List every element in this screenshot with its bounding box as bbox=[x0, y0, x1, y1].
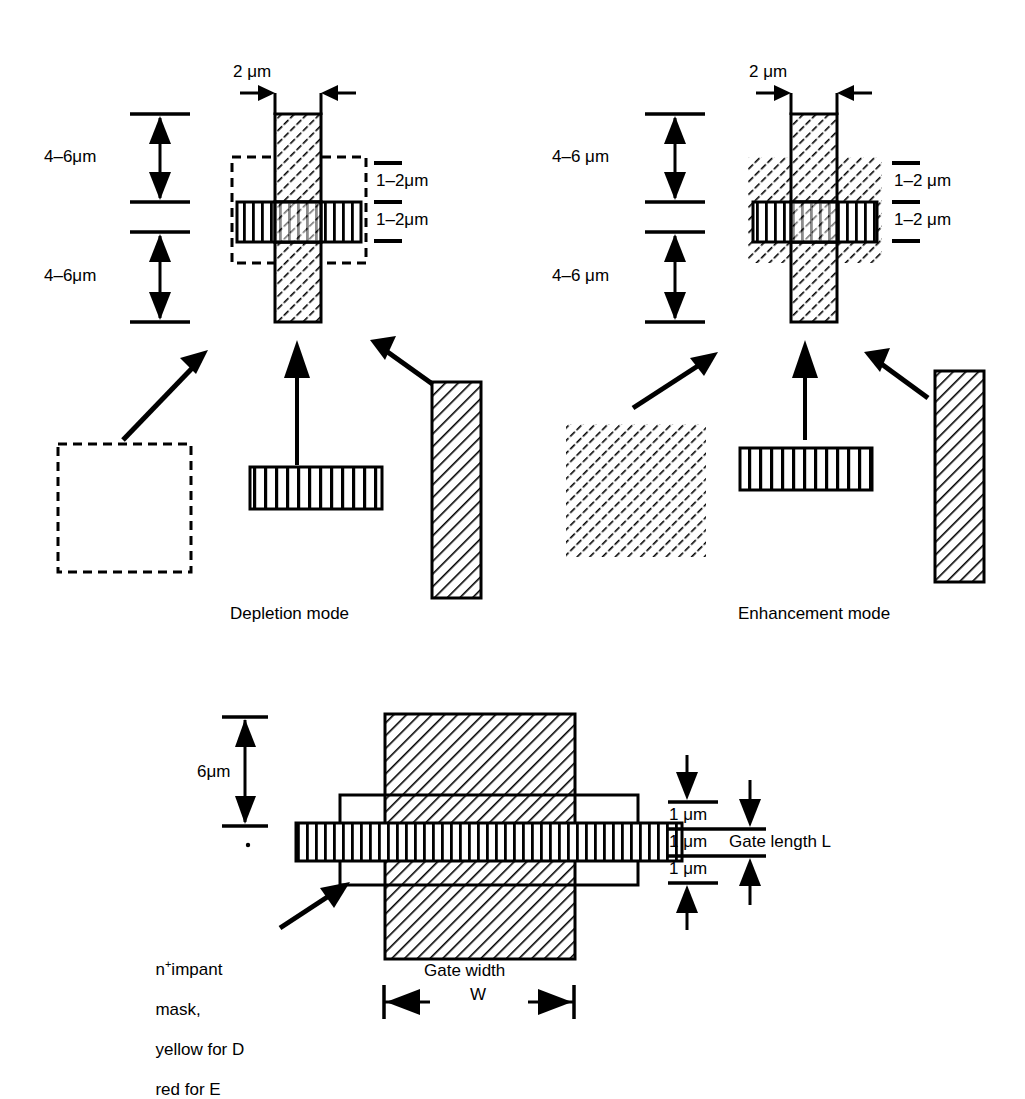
label-left-lower-enhancement: 4–6 μm bbox=[552, 266, 609, 286]
dim-left-lower-enhancement bbox=[645, 232, 705, 322]
panel-depletion bbox=[58, 85, 481, 598]
dim-gate-width-top-depletion bbox=[240, 85, 356, 115]
label-gate-width-line1-plan: Gate width bbox=[424, 961, 505, 981]
label-right-upper-enhancement: 1–2 μm bbox=[894, 171, 951, 191]
label-left-upper-depletion: 4–6μm bbox=[44, 147, 96, 167]
label-gate-width-top-depletion: 2 μm bbox=[233, 62, 271, 82]
callout-line1: n+impant bbox=[155, 960, 222, 979]
callout-line2: mask, bbox=[155, 1000, 200, 1019]
callout-arrow-implant-mask bbox=[280, 882, 350, 928]
dim-left-plan bbox=[222, 717, 268, 847]
legend-gate-stripe-enhancement bbox=[740, 448, 872, 490]
mode-label-depletion: Depletion mode bbox=[230, 604, 349, 624]
overlap-hatch-enhancement bbox=[791, 202, 837, 242]
label-left-lower-depletion: 4–6μm bbox=[44, 266, 96, 286]
legend-implant-mask-depletion bbox=[58, 444, 191, 572]
callout-line3: yellow for D bbox=[155, 1040, 244, 1059]
label-left-vertical-plan: 6μm bbox=[197, 762, 230, 782]
label-gate-width-line2-plan: W bbox=[470, 985, 486, 1005]
label-right-lower-enhancement: 1–2 μm bbox=[894, 210, 951, 230]
label-right-upper-depletion: 1–2μm bbox=[376, 171, 428, 191]
overlap-hatch-depletion bbox=[275, 202, 321, 242]
mode-label-enhancement: Enhancement mode bbox=[738, 604, 890, 624]
callout-line4: red for E bbox=[155, 1080, 220, 1099]
dim-left-lower-depletion bbox=[130, 232, 190, 322]
callout-arrows-depletion bbox=[123, 336, 438, 465]
dim-left-upper-depletion bbox=[130, 114, 190, 202]
dim-left-upper-enhancement bbox=[645, 114, 705, 202]
label-right-bottom-plan: 1 μm bbox=[669, 859, 707, 879]
legend-gate-stripe-depletion bbox=[250, 467, 382, 509]
legend-implant-mask-enhancement bbox=[566, 424, 706, 557]
legend-gate-metal-enhancement bbox=[935, 371, 984, 582]
callout-text-implant-mask: n+impant mask, yellow for D red for E bbox=[146, 938, 244, 1099]
legend-gate-metal-depletion bbox=[432, 382, 481, 598]
label-gate-length-plan: Gate length L bbox=[729, 832, 831, 852]
label-right-mid-plan: 1 μm bbox=[669, 832, 707, 852]
label-gate-width-top-enhancement: 2 μm bbox=[749, 62, 787, 82]
label-right-top-plan: 1 μm bbox=[669, 805, 707, 825]
panel-enhancement bbox=[566, 85, 984, 582]
label-left-upper-enhancement: 4–6 μm bbox=[552, 147, 609, 167]
gate-stripe-plan bbox=[296, 823, 682, 861]
dim-gate-width-top-enhancement bbox=[756, 85, 872, 115]
label-right-lower-depletion: 1–2μm bbox=[376, 210, 428, 230]
